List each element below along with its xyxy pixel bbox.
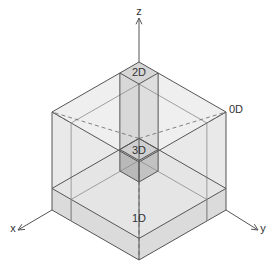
y-axis-label: y <box>260 222 266 234</box>
y-axis-arrowhead-icon <box>251 224 258 230</box>
cube-diagram: z x y 2D 3D 0D 1D <box>0 0 276 264</box>
x-axis-label: x <box>10 222 16 234</box>
label-1d: 1D <box>132 212 146 224</box>
x-axis <box>18 210 52 230</box>
label-3d: 3D <box>132 144 146 156</box>
x-axis-arrowhead-icon <box>18 224 25 230</box>
y-axis <box>226 210 258 230</box>
label-0d: 0D <box>229 103 243 115</box>
label-2d: 2D <box>132 66 146 78</box>
z-axis-label: z <box>136 5 142 17</box>
